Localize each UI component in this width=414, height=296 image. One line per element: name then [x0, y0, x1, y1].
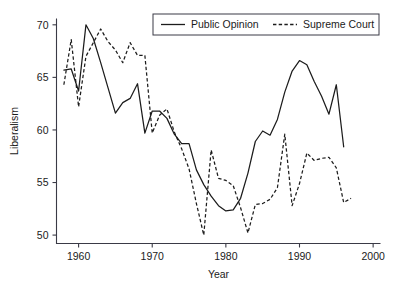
data-series-group [64, 25, 351, 235]
x-axis-ticks: 19601970198019902000 [67, 244, 385, 262]
chart-root: 5055606570 19601970198019902000 Public O… [0, 0, 414, 296]
legend-label: Supreme Court [303, 18, 374, 30]
plot-frame [57, 19, 381, 244]
line-chart: 5055606570 19601970198019902000 Public O… [0, 0, 414, 296]
x-tick-label: 1980 [214, 250, 238, 262]
axis-frame [57, 19, 381, 244]
y-tick-label: 70 [37, 19, 49, 31]
y-tick-label: 50 [37, 229, 49, 241]
chart-canvas: 5055606570 19601970198019902000 Public O… [0, 0, 414, 296]
chart-legend: Public OpinionSupreme Court [153, 14, 379, 35]
series-public-opinion [64, 25, 344, 211]
x-tick-label: 1990 [288, 250, 312, 262]
y-axis-ticks: 5055606570 [37, 19, 57, 241]
series-supreme-court [64, 29, 351, 235]
y-axis-title: Liberalism [8, 107, 20, 155]
y-tick-label: 65 [37, 71, 49, 83]
x-tick-label: 2000 [361, 250, 385, 262]
y-tick-label: 60 [37, 124, 49, 136]
x-axis-title: Year [208, 268, 230, 280]
y-tick-label: 55 [37, 176, 49, 188]
x-tick-label: 1970 [141, 250, 165, 262]
x-tick-label: 1960 [67, 250, 91, 262]
legend-label: Public Opinion [191, 18, 259, 30]
